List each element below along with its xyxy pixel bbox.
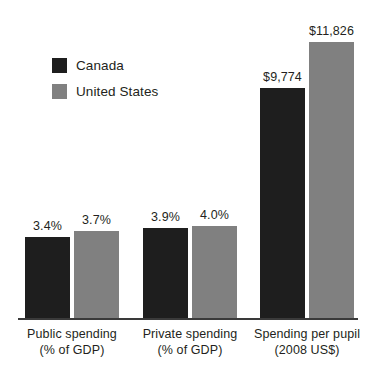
- bar-canada-spending-per-pupil: [260, 88, 305, 318]
- category-label-spending-per-pupil: Spending per pupil (2008 US$): [242, 326, 372, 358]
- bar-united-states-spending-per-pupil: [309, 42, 354, 318]
- bar-value-united-states-spending-per-pupil: $11,826: [292, 25, 372, 38]
- bar-value-united-states-public-spending: 3.7%: [57, 214, 137, 227]
- bar-value-united-states-private-spending: 4.0%: [175, 209, 255, 222]
- category-label-line2: (% of GDP): [7, 342, 137, 358]
- category-label-line1: Public spending: [27, 327, 117, 341]
- x-axis-baseline: [18, 318, 358, 320]
- plot-area: 3.4% 3.7% 3.9% 4.0% $9,774 $11,826 Publi…: [0, 0, 375, 369]
- category-label-line1: Spending per pupil: [254, 327, 360, 341]
- category-label-line2: (% of GDP): [125, 342, 255, 358]
- bar-united-states-private-spending: [192, 226, 237, 318]
- bar-united-states-public-spending: [74, 231, 119, 318]
- category-label-line2: (2008 US$): [242, 342, 372, 358]
- category-label-line1: Private spending: [143, 327, 238, 341]
- bar-canada-private-spending: [143, 228, 188, 318]
- category-label-public-spending: Public spending (% of GDP): [7, 326, 137, 358]
- bar-canada-public-spending: [25, 237, 70, 318]
- category-label-private-spending: Private spending (% of GDP): [125, 326, 255, 358]
- bar-chart: Canada United States 3.4% 3.7% 3.9% 4.0%…: [0, 0, 375, 369]
